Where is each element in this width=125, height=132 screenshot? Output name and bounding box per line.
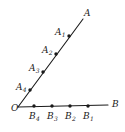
point-dot-B2 — [68, 104, 71, 107]
point-dot-A1 — [67, 34, 70, 37]
ray-OB — [18, 105, 108, 107]
point-dot-A2 — [54, 52, 57, 55]
point-label-B2: B2 — [65, 112, 75, 121]
point-label-A1: A1 — [55, 28, 65, 37]
geometry-figure: OBAA4A3A2A1B4B3B2B1 — [0, 0, 125, 132]
point-label-B3: B3 — [47, 112, 57, 121]
point-label-A4: A4 — [16, 83, 26, 92]
vertex-label-O: O — [11, 104, 18, 113]
endpoint-label-B: B — [112, 100, 119, 109]
point-dot-A4 — [28, 88, 31, 91]
point-label-A3: A3 — [29, 64, 39, 73]
point-label-A2: A2 — [42, 46, 52, 55]
point-label-B1: B1 — [83, 112, 93, 121]
geometry-canvas — [0, 0, 125, 132]
ray-OA — [18, 19, 83, 107]
endpoint-label-A: A — [84, 9, 91, 18]
point-dot-B3 — [50, 104, 53, 107]
point-dot-A3 — [41, 70, 44, 73]
point-label-B4: B4 — [29, 112, 39, 121]
point-dot-B1 — [86, 104, 89, 107]
point-dot-B4 — [32, 104, 35, 107]
